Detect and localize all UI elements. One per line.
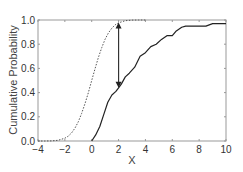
y-tick-label: 0.0 — [21, 136, 35, 147]
reference-cdf-curve — [38, 20, 145, 141]
x-tick-label: 8 — [196, 144, 202, 155]
y-tick-label: 0.8 — [21, 39, 35, 50]
plot-frame — [38, 20, 226, 141]
cdf-chart: −4−20246810 0.00.20.40.60.81.0 X Cumulat… — [0, 0, 243, 172]
x-axis-ticks: −4−20246810 — [32, 20, 232, 155]
x-tick-label: 6 — [170, 144, 176, 155]
x-tick-label: −2 — [59, 144, 71, 155]
plot-border — [38, 20, 226, 141]
x-tick-label: 10 — [220, 144, 232, 155]
annotation-layer — [116, 22, 122, 87]
x-tick-label: 4 — [143, 144, 149, 155]
y-tick-label: 1.0 — [21, 15, 35, 26]
y-tick-label: 0.4 — [21, 87, 35, 98]
y-tick-label: 0.6 — [21, 63, 35, 74]
y-axis-label: Cumulative Probability — [7, 25, 19, 135]
x-axis-label: X — [128, 154, 136, 166]
empirical-cdf-curve — [92, 24, 226, 141]
series-layer — [38, 20, 226, 141]
x-tick-label: 0 — [89, 144, 95, 155]
arrow-up-head-icon — [116, 22, 122, 28]
y-tick-label: 0.2 — [21, 111, 35, 122]
x-tick-label: 2 — [116, 144, 122, 155]
